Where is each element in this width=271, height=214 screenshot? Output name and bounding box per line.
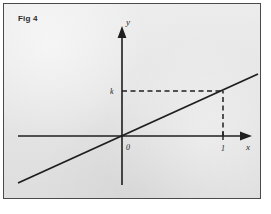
coordinate-plot: y x 0 k 1 [0,0,271,214]
y-axis-group: y [118,17,130,185]
x-axis-label: x [245,142,250,152]
figure-container: Fig 4 y x 0 k 1 [0,0,271,214]
y-axis-arrowhead [118,26,127,38]
y-tick-label-k: k [110,87,114,96]
function-line [18,74,258,183]
x-axis-group: x [18,132,252,152]
origin-label: 0 [126,143,130,152]
x-tick-label-1: 1 [221,144,225,153]
y-axis-label: y [125,17,130,27]
x-axis-arrowhead [240,132,252,141]
